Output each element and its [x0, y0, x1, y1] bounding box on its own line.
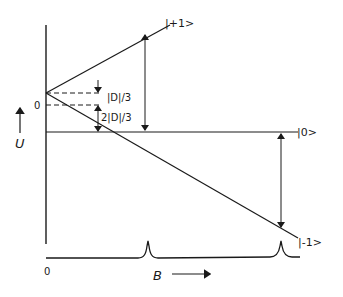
- energy-level-diagram: |+1> |0> |-1> 0 U |D|/3 2|D|/3 0 B: [0, 0, 343, 297]
- two-d-third-label: 2|D|/3: [101, 112, 132, 124]
- b-zero-label: 0: [44, 266, 50, 277]
- level-minus-one-line: [46, 93, 298, 238]
- b-axis-label: B: [153, 268, 162, 283]
- absorption-spectrum: [46, 241, 300, 258]
- level-plus-one-label: |+1>: [165, 17, 194, 30]
- u-axis-label: U: [15, 136, 25, 151]
- level-plus-one-line: [46, 25, 170, 93]
- level-minus-one-label: |-1>: [298, 236, 322, 249]
- level-zero-label: |0>: [297, 126, 317, 139]
- d-third-label: |D|/3: [107, 92, 131, 104]
- u-zero-label: 0: [34, 100, 40, 111]
